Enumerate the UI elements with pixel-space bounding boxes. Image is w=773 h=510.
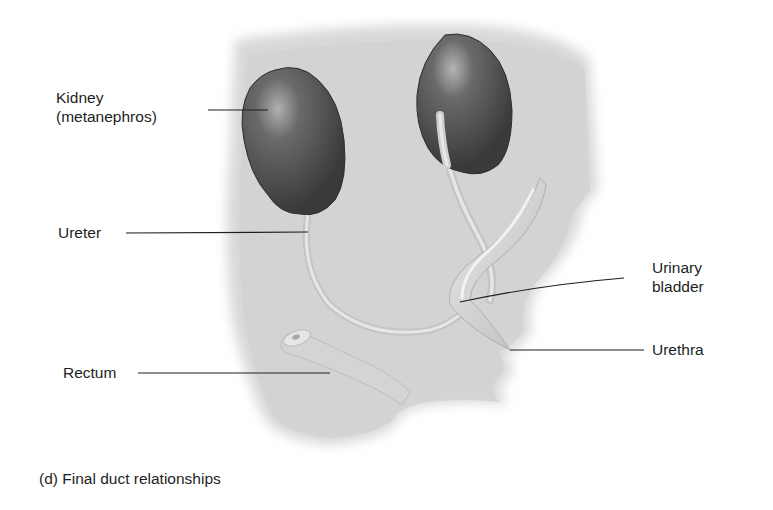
body-silhouette xyxy=(200,0,598,510)
label-ureter: Ureter xyxy=(58,223,101,242)
label-kidney: Kidney (metanephros) xyxy=(56,88,157,126)
label-rectum: Rectum xyxy=(63,363,116,382)
diagram-illustration xyxy=(0,0,773,510)
anatomy-diagram: Kidney (metanephros) Ureter Urinary blad… xyxy=(0,0,773,510)
label-bladder-line2: bladder xyxy=(652,277,704,296)
figure-caption: (d) Final duct relationships xyxy=(39,470,221,488)
label-kidney-line2: (metanephros) xyxy=(56,107,157,126)
label-kidney-line1: Kidney xyxy=(56,88,157,107)
label-urethra: Urethra xyxy=(652,340,704,359)
label-urinary-bladder: Urinary bladder xyxy=(652,258,704,296)
label-bladder-line1: Urinary xyxy=(652,258,704,277)
